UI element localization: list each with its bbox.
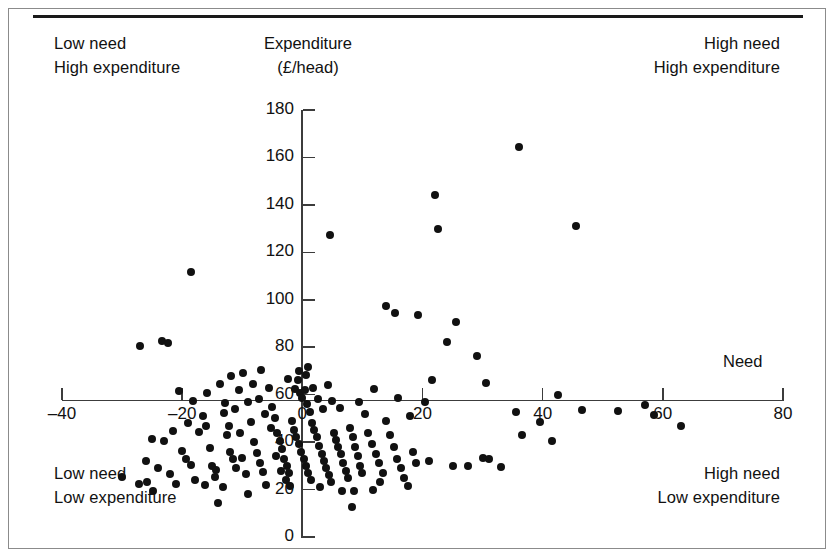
scatter-point xyxy=(404,482,412,490)
scatter-point xyxy=(187,268,195,276)
y-tick-label-140: 140 xyxy=(249,194,294,214)
scatter-point xyxy=(393,455,401,463)
scatter-point xyxy=(166,470,174,478)
scatter-point xyxy=(164,339,172,347)
scatter-point xyxy=(485,455,493,463)
x-axis-left-cap xyxy=(61,388,63,400)
scatter-point xyxy=(244,398,252,406)
scatter-point xyxy=(154,464,162,472)
scatter-point xyxy=(304,363,312,371)
scatter-point xyxy=(351,443,359,451)
scatter-point xyxy=(257,366,265,374)
scatter-point xyxy=(202,422,210,430)
scatter-point xyxy=(452,318,460,326)
scatter-point xyxy=(518,431,526,439)
scatter-point xyxy=(135,480,143,488)
scatter-point xyxy=(328,397,336,405)
scatter-point xyxy=(376,478,384,486)
scatter-point xyxy=(203,389,211,397)
scatter-point xyxy=(284,375,292,383)
scatter-point xyxy=(223,431,231,439)
scatter-point xyxy=(400,474,408,482)
y-tick-label-160: 160 xyxy=(249,146,294,166)
scatter-point xyxy=(307,476,315,484)
scatter-point xyxy=(149,487,157,495)
scatter-point xyxy=(309,384,317,392)
scatter-point xyxy=(428,376,436,384)
scatter-point xyxy=(326,231,334,239)
x-tick-40 xyxy=(542,388,544,400)
x-tick-label-80: 80 xyxy=(753,404,813,424)
scatter-point xyxy=(355,398,363,406)
scatter-point xyxy=(314,395,322,403)
y-tick-180 xyxy=(303,109,315,111)
scatter-point xyxy=(382,302,390,310)
scatter-point xyxy=(239,369,247,377)
scatter-point xyxy=(175,387,183,395)
y-tick-160 xyxy=(303,157,315,159)
scatter-point xyxy=(354,452,362,460)
scatter-point xyxy=(265,384,273,392)
scatter-point xyxy=(232,464,240,472)
scatter-point xyxy=(261,410,269,418)
x-axis-right-cap xyxy=(782,388,784,400)
scatter-point xyxy=(536,418,544,426)
scatter-point xyxy=(267,424,275,432)
scatter-point xyxy=(172,480,180,488)
scatter-point xyxy=(235,386,243,394)
x-tick-label-20: 20 xyxy=(393,404,453,424)
scatter-point xyxy=(346,424,354,432)
scatter-point xyxy=(301,386,309,394)
y-tick-40 xyxy=(303,441,315,443)
scatter-point xyxy=(249,380,257,388)
y-tick-80 xyxy=(303,346,315,348)
scatter-point xyxy=(148,435,156,443)
scatter-point xyxy=(253,449,261,457)
scatter-point xyxy=(229,455,237,463)
scatter-point xyxy=(414,311,422,319)
scatter-point xyxy=(409,448,417,456)
scatter-point xyxy=(368,440,376,448)
scatter-point xyxy=(372,450,380,458)
scatter-point xyxy=(288,417,296,425)
scatter-point xyxy=(169,427,177,435)
scatter-point xyxy=(302,371,310,379)
scatter-point xyxy=(344,474,352,482)
y-tick-label-100: 100 xyxy=(249,289,294,309)
y-tick-label-120: 120 xyxy=(249,241,294,261)
y-tick-100 xyxy=(303,299,315,301)
scatter-point xyxy=(178,447,186,455)
scatter-point xyxy=(391,309,399,317)
scatter-point xyxy=(221,399,229,407)
scatter-point xyxy=(160,437,168,445)
scatter-point xyxy=(294,376,302,384)
scatter-point xyxy=(482,379,490,387)
scatter-point xyxy=(358,469,366,477)
scatter-point xyxy=(268,403,276,411)
scatter-point xyxy=(449,462,457,470)
scatter-point xyxy=(464,462,472,470)
scatter-point xyxy=(184,419,192,427)
scatter-point xyxy=(313,433,321,441)
scatter-point xyxy=(306,408,314,416)
scatter-point xyxy=(431,191,439,199)
scatter-point xyxy=(390,443,398,451)
scatter-point xyxy=(118,473,126,481)
y-tick-120 xyxy=(303,252,315,254)
scatter-point xyxy=(216,380,224,388)
scatter-point xyxy=(337,450,345,458)
scatter-point xyxy=(277,467,285,475)
scatter-point xyxy=(227,372,235,380)
scatter-point xyxy=(316,483,324,491)
scatter-point xyxy=(338,487,346,495)
scatter-point xyxy=(375,459,383,467)
scatter-plot-area: 020406080100120140160180 –40–20020406080 xyxy=(0,0,834,557)
scatter-point xyxy=(136,342,144,350)
scatter-point xyxy=(242,470,250,478)
scatter-point xyxy=(295,367,303,375)
scatter-point xyxy=(214,499,222,507)
scatter-point xyxy=(319,405,327,413)
y-tick-label-0: 0 xyxy=(249,526,294,546)
scatter-point xyxy=(327,478,335,486)
scatter-point xyxy=(143,478,151,486)
